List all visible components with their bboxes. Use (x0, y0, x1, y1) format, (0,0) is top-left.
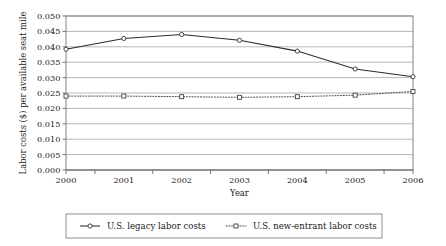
x-axis-title: Year (229, 188, 249, 198)
chart-container: 0.0000.0050.0100.0150.0200.0250.0300.035… (0, 0, 446, 246)
y-tick-label: 0.045 (37, 26, 60, 36)
data-point-marker (64, 94, 68, 98)
data-point-marker (238, 95, 242, 99)
y-tick-label: 0.040 (37, 42, 60, 52)
data-point-marker (64, 47, 68, 51)
x-tick-label: 2006 (403, 175, 424, 185)
x-tick-label: 2000 (56, 175, 77, 185)
line-chart: 0.0000.0050.0100.0150.0200.0250.0300.035… (0, 0, 446, 246)
y-axis-title: Labor costs ($) per available seat mile (18, 12, 28, 175)
data-point-marker (353, 67, 357, 71)
gridlines-group (66, 16, 413, 155)
data-point-marker (353, 93, 357, 97)
x-tick-label: 2005 (345, 175, 366, 185)
data-point-marker (122, 94, 126, 98)
chart-legend: U.S. legacy labor costsU.S. new-entrant … (66, 214, 382, 238)
y-tick-label: 0.025 (37, 88, 60, 98)
y-tick-label: 0.010 (37, 134, 60, 144)
x-axis-ticks-group: 2000200120022003200420052006 (56, 170, 424, 185)
data-point-marker (411, 89, 415, 93)
y-tick-label: 0.005 (37, 150, 60, 160)
y-tick-label: 0.050 (37, 11, 60, 21)
data-point-marker (122, 36, 126, 40)
data-point-marker (295, 95, 299, 99)
legend-label-legacy: U.S. legacy labor costs (107, 221, 206, 231)
data-point-marker (411, 75, 415, 79)
y-tick-label: 0.035 (37, 57, 60, 67)
x-tick-label: 2003 (229, 175, 250, 185)
y-tick-label: 0.030 (37, 73, 60, 83)
x-tick-label: 2002 (171, 175, 192, 185)
legend-marker-square (234, 224, 238, 228)
y-tick-label: 0.015 (37, 119, 60, 129)
data-point-marker (180, 32, 184, 36)
y-tick-label: 0.020 (37, 103, 60, 113)
data-series-group (64, 32, 415, 99)
data-point-marker (237, 38, 241, 42)
data-point-marker (180, 95, 184, 99)
legend-marker-circle (88, 224, 92, 228)
x-tick-label: 2001 (113, 175, 134, 185)
data-point-marker (295, 49, 299, 53)
y-axis-ticks-group: 0.0000.0050.0100.0150.0200.0250.0300.035… (37, 11, 66, 175)
x-tick-label: 2004 (287, 175, 308, 185)
y-tick-label: 0.000 (37, 165, 60, 175)
legend-label-new-entrant: U.S. new-entrant labor costs (253, 221, 377, 231)
